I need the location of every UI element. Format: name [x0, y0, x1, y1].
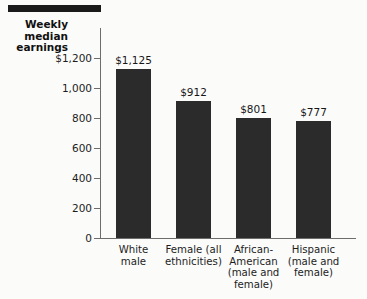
y-tick-label-600: 600: [28, 143, 92, 154]
x-category-label-line: (male and: [282, 256, 345, 268]
y-axis-title: Weekly median earnings: [0, 19, 68, 54]
x-category-label-line: (male and: [222, 267, 285, 279]
x-category-label-line: female): [282, 267, 345, 279]
bar: [116, 69, 151, 238]
x-category-label-line: Hispanic: [282, 244, 345, 256]
x-category-label: Hispanic(male andfemale): [282, 244, 345, 279]
y-tick-label-1200: $1,200: [28, 53, 92, 64]
chart-title: [150, 0, 360, 3]
x-category-label-line: American: [222, 256, 285, 268]
x-category-label-line: male: [102, 256, 165, 268]
y-tick-400: [94, 178, 100, 179]
y-tick-800: [94, 118, 100, 119]
title-rule: [8, 5, 101, 12]
bar: [296, 121, 331, 238]
bar-value-label: $1,125: [102, 55, 165, 66]
y-tick-1200: [94, 58, 100, 59]
x-category-label-line: ethnicities): [162, 256, 225, 268]
y-axis-title-line-1: Weekly: [0, 19, 68, 31]
x-axis-line: [100, 238, 356, 239]
y-axis-line: [100, 28, 101, 238]
bar-value-label: $912: [162, 87, 225, 98]
x-category-label-line: Female (all: [162, 244, 225, 256]
y-tick-label-400: 400: [28, 173, 92, 184]
y-tick-200: [94, 208, 100, 209]
y-tick-label-0: 0: [28, 233, 92, 244]
x-category-label: Female (allethnicities): [162, 244, 225, 267]
y-tick-label-1000: 1,000: [28, 83, 92, 94]
bar: [176, 101, 211, 238]
y-tick-label-800: 800: [28, 113, 92, 124]
x-category-label-line: African-: [222, 244, 285, 256]
bar-value-label: $801: [222, 104, 285, 115]
bar: [236, 118, 271, 238]
x-category-label-line: White: [102, 244, 165, 256]
y-tick-0: [94, 238, 100, 239]
y-tick-1000: [94, 88, 100, 89]
x-category-label: African-American(male andfemale): [222, 244, 285, 290]
x-category-label-line: female): [222, 279, 285, 291]
y-tick-label-200: 200: [28, 203, 92, 214]
y-tick-600: [94, 148, 100, 149]
bar-value-label: $777: [282, 107, 345, 118]
x-category-label: Whitemale: [102, 244, 165, 267]
bar-chart: Weekly median earnings 02004006008001,00…: [0, 0, 367, 299]
